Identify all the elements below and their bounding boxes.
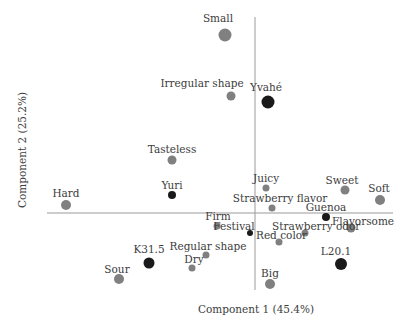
point-label: L20.1 <box>321 246 351 257</box>
point-label: Big <box>261 268 279 279</box>
point-label: Soft <box>368 183 390 194</box>
point-label: Small <box>203 13 233 24</box>
point-sour <box>114 274 124 284</box>
point-label: Hard <box>52 188 79 199</box>
point-label: Regular shape <box>170 241 247 252</box>
point-small <box>219 29 232 42</box>
point-label: K31.5 <box>133 244 164 255</box>
point-label: Irregular shape <box>160 78 243 89</box>
point-label: Sour <box>104 264 129 275</box>
point-big <box>265 279 275 289</box>
point-label: Yvahé <box>250 82 282 93</box>
point-l20-1 <box>335 258 347 270</box>
point-sweet <box>341 186 350 195</box>
point-yvah- <box>262 96 275 109</box>
point-label: Sweet <box>326 175 359 186</box>
point-tasteless <box>168 156 177 165</box>
y-axis-title: Component 2 (25.2%) <box>16 92 28 208</box>
point-label: Yuri <box>161 180 182 191</box>
point-strawberry-flavor <box>269 205 276 212</box>
point-label: Dry <box>184 254 203 265</box>
point-juicy <box>263 185 270 192</box>
point-irregular-shape <box>227 92 236 101</box>
point-k31-5 <box>144 258 155 269</box>
point-label: Festival <box>213 221 254 232</box>
point-label: Juicy <box>253 173 279 184</box>
point-yuri <box>168 191 176 199</box>
point-label: Tasteless <box>148 144 197 155</box>
x-axis-title: Component 1 (45.4%) <box>198 303 314 315</box>
point-label: Guenoa <box>306 202 347 213</box>
point-label: Red color <box>256 230 307 241</box>
pca-biplot <box>0 0 415 327</box>
point-soft <box>375 195 385 205</box>
point-hard <box>61 200 71 210</box>
point-dry <box>189 265 196 272</box>
